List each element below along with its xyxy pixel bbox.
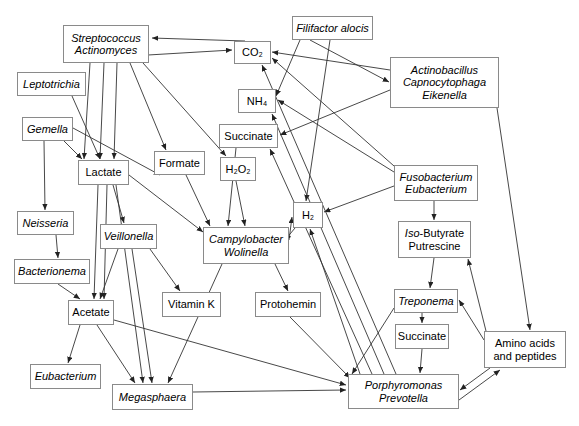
edge-filifactor-to-actinobacillus bbox=[310, 40, 389, 82]
node-label: Actinomyces bbox=[75, 44, 137, 57]
node-label: Vitamin K bbox=[168, 298, 215, 311]
edge-acetate-to-eubacterium bbox=[68, 325, 80, 363]
node-label: Bacterionema bbox=[18, 265, 86, 278]
node-acetate[interactable]: Acetate bbox=[68, 300, 114, 325]
edge-lactate-to-acetate bbox=[94, 185, 98, 299]
edge-veillonella-to-vitamink bbox=[150, 249, 180, 291]
node-label: Eikenella bbox=[422, 89, 467, 102]
node-co2[interactable]: CO₂ bbox=[234, 41, 271, 64]
edge-campylobacter-to-megasphaera bbox=[168, 264, 222, 383]
edge-isobutyrate-to-treponema bbox=[430, 258, 434, 288]
node-label: Iso-Butyrate bbox=[405, 227, 464, 240]
node-label: H₂ bbox=[302, 209, 314, 222]
node-label: Succinate bbox=[224, 130, 272, 143]
node-label: Acetate bbox=[72, 306, 109, 319]
node-isobutyrate[interactable]: Iso-ButyratePutrescine bbox=[398, 221, 471, 258]
edge-streptococcus-to-co2 bbox=[148, 50, 232, 55]
edge-formate-to-campylobacter bbox=[186, 175, 210, 226]
node-label: Veillonella bbox=[104, 230, 154, 243]
node-campylobacter[interactable]: CampylobacterWolinella bbox=[203, 227, 289, 264]
node-label: Actinobacillus bbox=[411, 64, 478, 77]
node-label: Succinate bbox=[398, 330, 446, 343]
edge-veillonella-to-acetate bbox=[100, 249, 118, 299]
node-succinate_bottom[interactable]: Succinate bbox=[395, 324, 449, 349]
edge-leptotrichia-to-lactate bbox=[72, 96, 100, 159]
edge-acetate-to-porphyromonas bbox=[114, 320, 346, 385]
node-neisseria[interactable]: Neisseria bbox=[17, 211, 74, 235]
node-porphyromonas[interactable]: PorphyromonasPrevotella bbox=[348, 374, 459, 409]
edge-fusobacterium-to-h2 bbox=[324, 186, 394, 212]
node-label: Eubacterium bbox=[405, 183, 467, 196]
node-label: Eubacterium bbox=[35, 370, 97, 383]
node-label: Filifactor alocis bbox=[296, 22, 369, 35]
edge-gemella-to-lactate bbox=[64, 141, 82, 159]
node-label: CO₂ bbox=[242, 46, 263, 59]
edge-neisseria-to-bacterionema bbox=[56, 235, 58, 258]
edge-bacterionema-to-acetate bbox=[58, 284, 80, 299]
node-fusobacterium[interactable]: FusobacteriumEubacterium bbox=[394, 165, 478, 201]
node-treponema[interactable]: Treponema bbox=[394, 289, 458, 313]
edge-actinobacillus-to-succinate_top bbox=[280, 90, 390, 135]
node-label: Amino acids bbox=[495, 337, 555, 350]
edge-treponema-to-porphyromonas bbox=[352, 308, 394, 374]
node-label: Megasphaera bbox=[119, 391, 186, 404]
node-actinobacillus[interactable]: ActinobacillusCapnocytophagaEikenella bbox=[390, 57, 499, 108]
node-label: Streptococcus bbox=[71, 32, 141, 45]
node-eubacterium[interactable]: Eubacterium bbox=[30, 364, 101, 389]
node-nh4[interactable]: NH₄ bbox=[238, 89, 276, 113]
node-label: Porphyromonas bbox=[365, 379, 443, 392]
edge-streptococcus-to-h2o2 bbox=[143, 63, 226, 156]
node-label: Putrescine bbox=[409, 240, 461, 253]
edge-actinobacillus-to-co2 bbox=[272, 52, 390, 70]
node-lactate[interactable]: Lactate bbox=[78, 160, 129, 185]
edge-lactate-to-veillonella bbox=[113, 185, 124, 223]
node-h2[interactable]: H₂ bbox=[293, 202, 323, 228]
node-label: Campylobacter bbox=[209, 233, 283, 246]
edge-filifactor-to-h2 bbox=[306, 40, 330, 201]
node-label: Prevotella bbox=[379, 392, 428, 405]
node-succinate_top[interactable]: Succinate bbox=[219, 124, 278, 148]
edge-aminoacids-to-porphyromonas bbox=[460, 368, 490, 390]
node-gemella[interactable]: Gemella bbox=[22, 117, 73, 141]
edge-veillonella-to-megasphaera bbox=[132, 249, 152, 383]
node-label: and peptides bbox=[494, 350, 557, 363]
node-aminoacids[interactable]: Amino acidsand peptides bbox=[484, 331, 566, 368]
node-streptococcus[interactable]: StreptococcusActinomyces bbox=[63, 25, 149, 63]
edge-aminoacids-to-treponema bbox=[459, 300, 484, 340]
node-bacterionema[interactable]: Bacterionema bbox=[14, 259, 90, 284]
node-label: Leptotrichia bbox=[23, 78, 80, 91]
edge-campylobacter-to-protohemin bbox=[275, 264, 288, 291]
edge-co2-to-streptococcus bbox=[152, 38, 245, 41]
node-label: Capnocytophaga bbox=[403, 76, 486, 89]
edge-streptococcus-to-formate bbox=[130, 63, 166, 150]
edge-acetate-to-megasphaera bbox=[97, 325, 135, 383]
node-filifactor[interactable]: Filifactor alocis bbox=[292, 16, 373, 40]
diagram-canvas: StreptococcusActinomycesLeptotrichiaGeme… bbox=[0, 0, 579, 426]
node-label: Treponema bbox=[398, 295, 453, 308]
edge-megasphaera-to-porphyromonas bbox=[193, 390, 346, 392]
node-label: Neisseria bbox=[23, 217, 69, 230]
edge-streptococcus-to-lactate bbox=[100, 63, 104, 159]
edge-porphyromonas-to-aminoacids bbox=[459, 370, 500, 400]
edge-streptococcus-to-lactate bbox=[114, 63, 117, 159]
node-label: Gemella bbox=[27, 123, 68, 136]
edge-fusobacterium-to-nh4 bbox=[278, 100, 394, 172]
node-protohemin[interactable]: Protohemin bbox=[255, 292, 321, 317]
node-label: Protohemin bbox=[260, 298, 316, 311]
node-leptotrichia[interactable]: Leptotrichia bbox=[17, 72, 86, 96]
edge-fusobacterium-to-co2 bbox=[272, 58, 394, 166]
node-h2o2[interactable]: H₂O₂ bbox=[220, 157, 256, 181]
node-vitamink[interactable]: Vitamin K bbox=[162, 292, 221, 317]
node-megasphaera[interactable]: Megasphaera bbox=[112, 384, 193, 410]
node-formate[interactable]: Formate bbox=[154, 151, 205, 175]
node-veillonella[interactable]: Veillonella bbox=[100, 224, 157, 249]
edge-porphyromonas-to-co2 bbox=[262, 65, 396, 374]
edge-gemella-to-neisseria bbox=[44, 141, 45, 210]
edge-h2o2-to-campylobacter bbox=[236, 181, 245, 226]
node-label: Wolinella bbox=[224, 246, 269, 259]
edge-actinobacillus-to-aminoacids bbox=[497, 108, 530, 330]
node-label: Fusobacterium bbox=[400, 171, 473, 184]
node-label: H₂O₂ bbox=[225, 163, 250, 176]
edge-succinate_bottom-to-porphyromonas bbox=[420, 349, 422, 373]
edge-protohemin-to-porphyromonas bbox=[290, 317, 350, 378]
